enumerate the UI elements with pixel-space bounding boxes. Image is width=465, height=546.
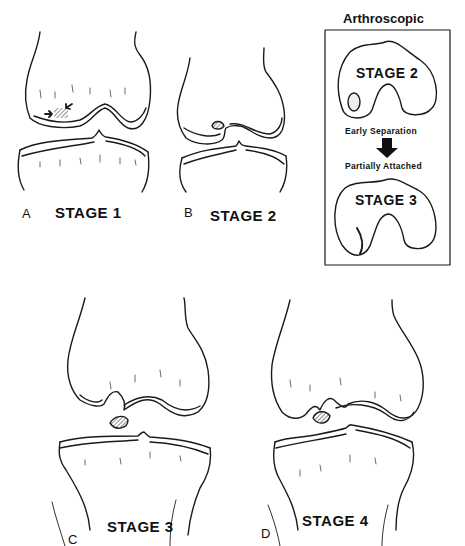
inset-bottom-stage-label: STAGE 3 — [355, 192, 417, 208]
panel-d-knee-drawing — [268, 300, 423, 546]
down-arrow-icon — [376, 138, 398, 158]
inset-top-caption: Early Separation — [345, 126, 417, 136]
stage-label-3: STAGE 3 — [107, 518, 174, 535]
inset-title: Arthroscopic — [343, 11, 424, 26]
stage-label-1: STAGE 1 — [55, 204, 122, 221]
panel-letter-b: B — [184, 205, 193, 220]
inset-bottom-caption: Partially Attached — [345, 161, 422, 171]
stage-label-2: STAGE 2 — [210, 207, 277, 224]
panel-c-knee-drawing — [52, 298, 211, 546]
stage-label-4: STAGE 4 — [302, 512, 369, 529]
panel-b-knee-drawing — [177, 48, 286, 192]
panel-letter-d: D — [261, 526, 270, 541]
panel-a-knee-drawing — [18, 32, 150, 192]
panel-a-texture — [40, 85, 136, 167]
lesion-hatch — [54, 108, 68, 118]
panel-letter-c: C — [68, 532, 77, 546]
inset-top-stage-label: STAGE 2 — [356, 65, 418, 81]
inset-stage3-condyle — [335, 179, 436, 255]
panel-letter-a: A — [22, 206, 31, 221]
knee-osteochondritis-diagram — [0, 0, 465, 546]
panel-cd-texture — [85, 370, 401, 476]
